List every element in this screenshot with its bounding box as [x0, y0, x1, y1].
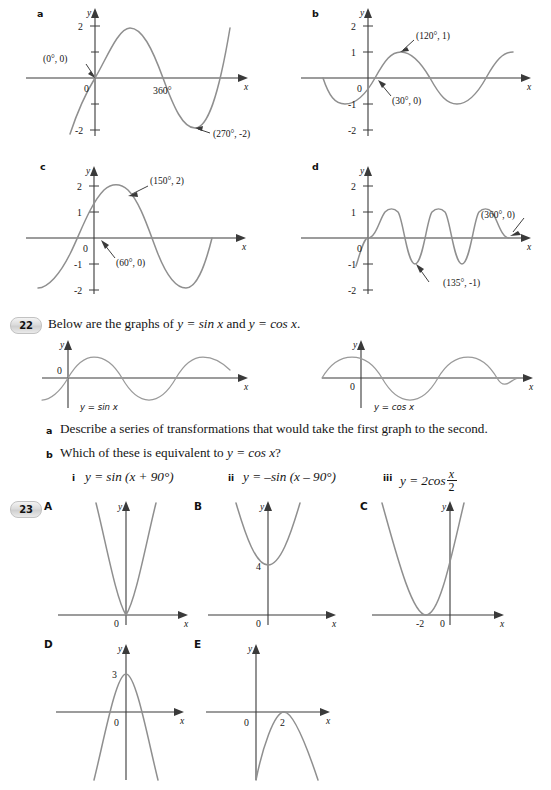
origin-label-q22-sin: 0 — [57, 365, 62, 376]
q22-stem-end: . — [297, 316, 300, 331]
y-axis-arrow-q22-sin — [64, 340, 72, 350]
textbook-page: a y x 0 2 -2 36 — [0, 0, 551, 790]
value-label-D-0: 3 — [112, 669, 117, 680]
value-label-B-0: 4 — [256, 561, 261, 572]
y-axis-arrow-E — [252, 644, 260, 654]
y-axis-arrow-C — [446, 501, 454, 511]
y-axis-label-q22-cos: y — [352, 340, 358, 350]
origin-label-D: 0 — [114, 717, 119, 728]
x-axis-arrow-A — [178, 611, 188, 619]
q22-option-iii-fraction: x2 — [447, 468, 457, 494]
curve-C — [382, 503, 464, 615]
leader-d-zero — [513, 218, 524, 232]
x-axis-label-q22-sin: x — [243, 382, 249, 392]
y-tick-label-b-3: -2 — [348, 125, 356, 136]
y-axis-label-C: y — [441, 502, 447, 512]
x-axis-label-d: x — [526, 242, 532, 252]
x-axis-arrow-B — [326, 611, 336, 619]
graph-E: y x 0 2 — [198, 634, 358, 784]
x-axis-label-B: x — [331, 619, 337, 629]
y-tick-label-d-2: -1 — [348, 259, 356, 270]
x-axis-arrow-E — [320, 708, 330, 716]
leader-a-origin-arrow — [88, 71, 95, 78]
origin-label-b: 0 — [357, 83, 362, 94]
x-axis-arrow-q22-cos — [523, 374, 533, 382]
value-label-E-0: 2 — [280, 717, 285, 728]
y-tick-label-c-1: 1 — [77, 207, 82, 218]
q22-part-b-before: Which of these is equivalent to — [60, 445, 224, 460]
y-tick-label-d-1: 1 — [351, 207, 356, 218]
q22-part-b-letter: b — [46, 449, 53, 460]
leader-c-zero-arrow — [101, 240, 109, 249]
x-axis-label-C: x — [499, 619, 505, 629]
y-axis-label-d: y — [359, 166, 365, 176]
x-axis-arrow-a — [238, 74, 248, 82]
y-tick-label-c-2: -1 — [74, 259, 82, 270]
q22-part-b-after: ? — [275, 445, 281, 460]
origin-label-q22-cos: 0 — [350, 381, 355, 392]
y-axis-label-A: y — [117, 502, 123, 512]
y-axis-label-D: y — [117, 644, 123, 654]
y-tick-label-c-3: -2 — [74, 285, 82, 296]
q22-option-iii-prefix: y = 2cos — [400, 473, 446, 488]
y-tick-label-a-0: 2 — [78, 21, 83, 32]
leader-b-max-arrow — [400, 47, 409, 52]
origin-label-c: 0 — [83, 243, 88, 254]
graph-C: y x 0 -2 — [364, 497, 534, 629]
q22-part-a-letter: a — [46, 425, 52, 436]
y-axis-label-c: y — [85, 166, 91, 176]
y-tick-label-b-1: 1 — [351, 47, 356, 58]
graph-A: y x 0 — [48, 497, 208, 629]
curve-a — [70, 28, 230, 134]
origin-label-E: 0 — [244, 717, 249, 728]
x-tick-label-a-0: 360° — [153, 85, 172, 96]
q22-stem-eq1: y = sin x — [177, 316, 223, 331]
q22-part-a-text: Describe a series of transformations tha… — [60, 421, 488, 437]
q22-stem: Below are the graphs of y = sin x and y … — [48, 316, 300, 332]
x-axis-label-D: x — [179, 716, 185, 726]
x-axis-label-b: x — [526, 82, 532, 92]
origin-label-d: 0 — [357, 243, 362, 254]
curve-c — [38, 185, 212, 288]
y-axis-arrow-c — [90, 166, 98, 176]
q22-part-b-eq: y = cos x — [227, 445, 275, 460]
graph-q22-cos: y x 0 y = cos x — [318, 336, 548, 414]
graph-B: y x 0 4 — [198, 497, 358, 629]
annotation-c-1: (60°, 0) — [116, 258, 145, 269]
annotation-a-0: (0°, 0) — [43, 54, 67, 65]
y-axis-arrow-d — [364, 166, 372, 176]
caption-q22-sin: y = sin x — [79, 402, 119, 412]
leader-c-max-arrow — [128, 192, 138, 197]
x-axis-arrow-c — [236, 234, 246, 242]
origin-label-A: 0 — [114, 618, 119, 629]
y-axis-arrow-A — [122, 501, 130, 511]
y-axis-arrow-a — [91, 8, 99, 18]
x-axis-arrow-b — [521, 74, 531, 82]
y-tick-label-d-3: -2 — [348, 285, 356, 296]
x-axis-label-A: x — [183, 619, 189, 629]
graph-a: y x 0 2 -2 360° (0°, 0) (270°, -2) — [8, 4, 258, 146]
leader-d-min-arrow — [416, 264, 424, 273]
annotation-b-1: (30°, 0) — [392, 96, 421, 107]
value-label-C-0: -2 — [416, 618, 424, 629]
y-axis-arrow-b — [364, 8, 372, 18]
q22-option-i-text: y = sin (x + 90°) — [85, 469, 174, 485]
y-axis-arrow-D — [122, 644, 130, 654]
q22-option-iii-numeral: iii — [383, 473, 392, 483]
x-axis-label-q22-cos: x — [528, 382, 534, 392]
y-tick-label-d-0: 2 — [351, 181, 356, 192]
y-axis-label-b: y — [359, 8, 365, 18]
y-tick-label-c-0: 2 — [77, 181, 82, 192]
origin-label-B: 0 — [256, 618, 261, 629]
y-tick-label-b-2: -1 — [348, 99, 356, 110]
x-axis-label-a: x — [243, 82, 249, 92]
annotation-a-1: (270°, -2) — [213, 129, 250, 140]
y-axis-label-q22-sin: y — [59, 340, 65, 350]
question-number-22: 22 — [10, 317, 42, 334]
curve-E — [256, 712, 318, 780]
graph-d: y x 0 2 1 -1 -2 (135°, -1) (360°, 0) — [283, 158, 543, 300]
question-number-23: 23 — [10, 501, 42, 518]
leader-c-max — [132, 186, 148, 194]
q22-stem-eq2: y = cos x — [249, 316, 297, 331]
leader-b-zero-arrow — [378, 80, 386, 88]
